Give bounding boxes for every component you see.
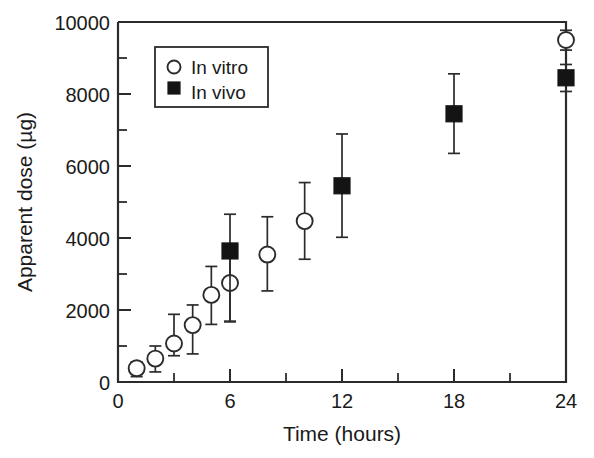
x-tick-label-6: 6 [224,390,235,412]
marker-open-circle [558,32,574,48]
legend-label-in-vivo: In vivo [191,82,246,103]
marker-open-circle [203,287,219,303]
apparent-dose-vs-time-chart: 0 2000 4000 6000 8000 10000 0 6 12 18 24… [0,0,594,458]
legend: In vitro In vivo [155,47,268,107]
marker-open-circle [166,335,182,351]
y-tick-label-2000: 2000 [66,300,111,322]
marker-filled-square [446,106,462,122]
legend-marker-in-vivo-icon [168,82,180,94]
x-axis-label: Time (hours) [283,422,401,445]
marker-filled-square [558,70,574,86]
y-axis-label: Apparent dose (µg) [13,112,36,292]
data-point [129,360,145,376]
marker-open-circle [297,213,313,229]
marker-filled-square [334,178,350,194]
legend-label-in-vitro: In vitro [191,57,248,78]
x-tick-label-18: 18 [443,390,465,412]
y-tick-label-10000: 10000 [54,12,110,34]
x-tick-label-12: 12 [331,390,353,412]
y-tick-label-0: 0 [99,372,110,394]
y-tick-label-8000: 8000 [66,84,111,106]
marker-filled-square [222,243,238,259]
marker-open-circle [259,247,275,263]
marker-open-circle [129,360,145,376]
y-tick-label-6000: 6000 [66,156,111,178]
legend-marker-in-vitro-icon [168,61,181,74]
marker-open-circle [185,317,201,333]
x-tick-label-24: 24 [555,390,577,412]
x-tick-label-0: 0 [112,390,123,412]
y-tick-label-4000: 4000 [66,228,111,250]
marker-open-circle [147,351,163,367]
